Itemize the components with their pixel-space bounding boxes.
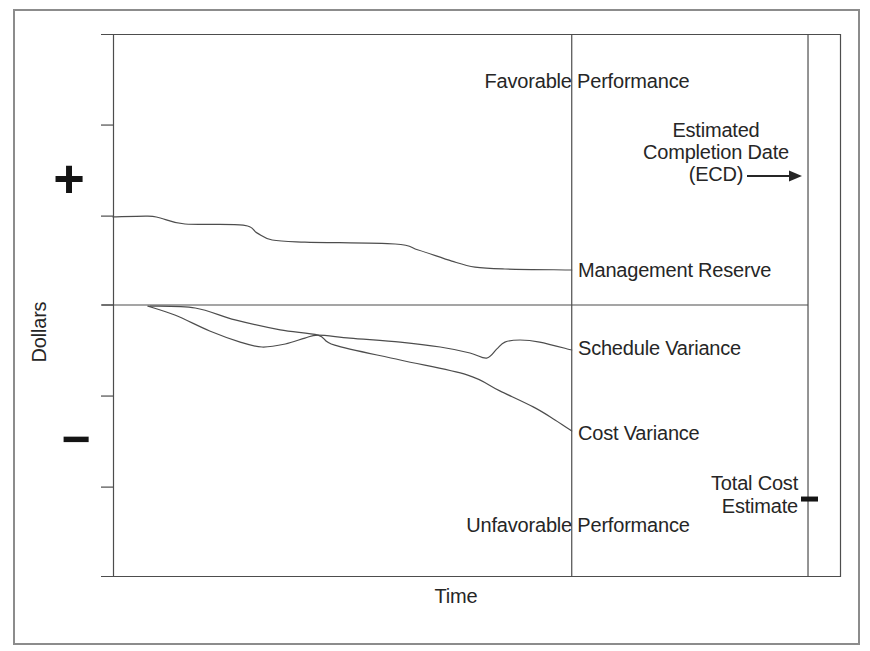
favorable-performance-label: Favorable Performance [485, 71, 690, 92]
series-management-reserve [113, 216, 572, 270]
y-axis-plus-sign: + [53, 151, 85, 205]
cost-variance-label: Cost Variance [578, 423, 700, 444]
total-cost-estimate-annotation: Total Cost Estimate [711, 472, 798, 518]
schedule-variance-label: Schedule Variance [578, 338, 741, 359]
ecd-annotation: Estimated Completion Date (ECD) [643, 119, 789, 185]
evm-trend-chart: Favorable Performance Estimated Completi… [0, 0, 870, 651]
x-axis-title: Time [435, 586, 478, 607]
management-reserve-label: Management Reserve [578, 260, 771, 281]
reference-lines [102, 34, 808, 577]
data-series [113, 216, 572, 431]
total-cost-line1: Total Cost [711, 472, 798, 495]
series-cost-variance [150, 306, 572, 431]
unfavorable-performance-label: Unfavorable Performance [466, 515, 689, 536]
ecd-annotation-line1: Estimated [643, 119, 789, 141]
series-schedule-variance [148, 306, 572, 358]
total-cost-line2: Estimate [711, 495, 798, 518]
ecd-annotation-line3: (ECD) [643, 163, 789, 185]
y-axis-title: Dollars [29, 302, 50, 363]
y-axis-minus-sign: − [61, 414, 90, 464]
ecd-annotation-line2: Completion Date [643, 141, 789, 163]
y-axis-ticks [101, 125, 113, 487]
plot-canvas [0, 0, 870, 651]
